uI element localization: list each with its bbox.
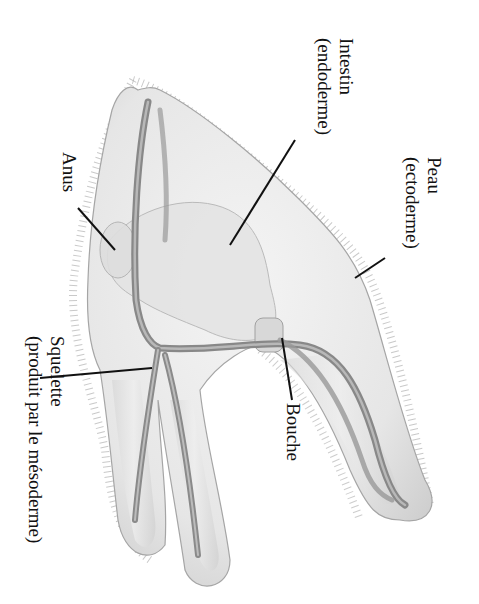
label-bouche-name: Bouche: [282, 403, 304, 461]
label-squelette-layer: (produit par le mésoderme): [24, 336, 46, 543]
label-anus-name: Anus: [58, 152, 80, 192]
label-intestin: Intestin (endoderme): [313, 38, 357, 135]
larva-illustration: [0, 0, 479, 604]
label-anus: Anus: [58, 152, 80, 192]
label-bouche: Bouche: [282, 403, 304, 461]
label-peau: Peau (ectoderme): [401, 157, 445, 249]
label-peau-layer: (ectoderme): [401, 157, 423, 249]
leader-line-peau: [355, 258, 385, 278]
label-intestin-layer: (endoderme): [313, 38, 335, 135]
label-squelette: Squelette (produit par le mésoderme): [24, 336, 68, 543]
pluteus-larva-diagram: Intestin (endoderme) Peau (ectoderme) An…: [0, 0, 479, 604]
label-squelette-name: Squelette: [46, 336, 68, 543]
label-intestin-name: Intestin: [335, 38, 357, 135]
label-peau-name: Peau: [423, 157, 445, 249]
anus-region: [100, 222, 136, 278]
